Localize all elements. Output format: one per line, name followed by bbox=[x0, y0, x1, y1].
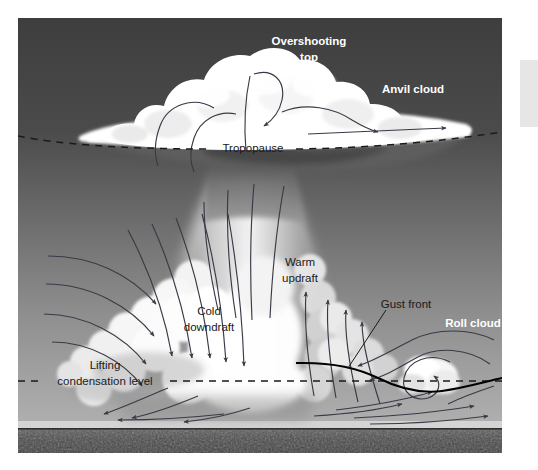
label-roll-cloud: Roll cloud bbox=[445, 317, 501, 329]
ground bbox=[18, 421, 502, 453]
label-gust-front: Gust front bbox=[381, 298, 432, 310]
label-cold-downdraft-line1: Cold bbox=[197, 305, 221, 317]
label-lifting-line2: condensation level bbox=[57, 375, 152, 387]
label-tropopause: Tropopause bbox=[223, 142, 284, 154]
thunderstorm-diagram: Overshooting top Anvil cloud Tropopause … bbox=[18, 18, 502, 453]
label-lifting-line1: Lifting bbox=[90, 359, 121, 371]
precipitation-shaft bbox=[114, 396, 318, 420]
diagram-canvas: Overshooting top Anvil cloud Tropopause … bbox=[18, 18, 502, 453]
label-warm-updraft-line1: Warm bbox=[285, 256, 315, 268]
label-overshooting-top-line1: Overshooting bbox=[272, 35, 347, 47]
ground-top-edge bbox=[18, 428, 502, 430]
side-callout-block bbox=[520, 60, 538, 127]
label-cold-downdraft-line2: downdraft bbox=[184, 321, 235, 333]
label-warm-updraft-line2: updraft bbox=[282, 272, 319, 284]
ground-texture bbox=[18, 428, 502, 453]
label-overshooting-top-line2: top bbox=[300, 51, 318, 63]
label-anvil-cloud: Anvil cloud bbox=[382, 83, 444, 95]
